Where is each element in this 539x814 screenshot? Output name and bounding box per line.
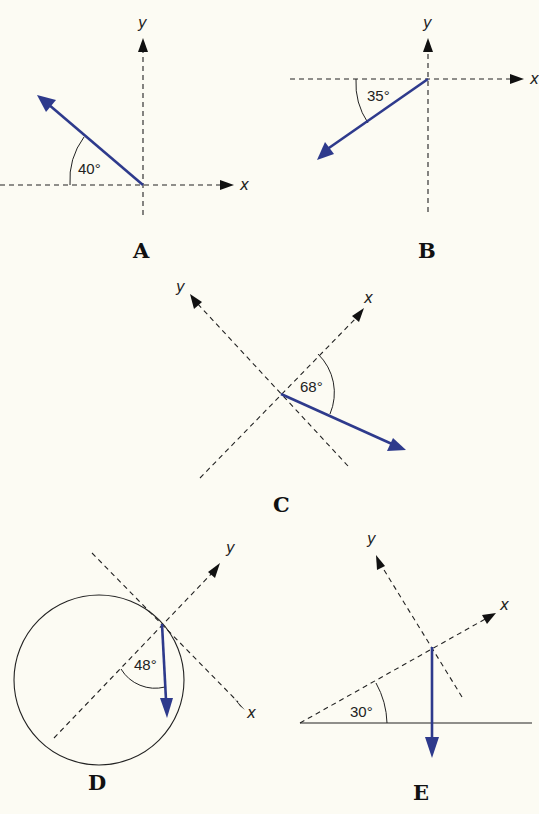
y-axis [196, 302, 348, 466]
panel-label: E [413, 780, 429, 805]
y-axis-label: y [225, 539, 236, 557]
angle-label: 30° [350, 703, 373, 720]
y-axis-arrowhead-icon [138, 38, 148, 52]
panel-e: x y 30° E [300, 530, 532, 805]
panel-label: B [418, 238, 436, 263]
y-axis-label: y [175, 278, 186, 296]
angle-label: 68° [300, 378, 323, 395]
panel-label: D [88, 770, 106, 795]
x-axis-label: x [239, 176, 249, 194]
angle-label: 40° [78, 160, 101, 177]
y-axis-label: y [366, 530, 377, 548]
vector-arrowhead-icon [425, 737, 439, 758]
angle-arc [376, 683, 387, 723]
panel-b: x y 35° B [290, 14, 539, 263]
x-axis-label: x [529, 70, 539, 88]
x-axis-label: x [499, 596, 509, 614]
panel-c: x y 68° C [175, 278, 406, 517]
vector-arrowhead-icon [387, 438, 406, 451]
panel-d: y x 48° D [14, 539, 256, 795]
vector-diagram: x y 40° A x y 35° B x y 68° C [0, 0, 539, 814]
y-axis [381, 565, 462, 697]
y-axis-arrowhead-icon [208, 563, 220, 578]
x-axis-arrowhead-icon [510, 74, 524, 84]
x-axis [300, 618, 487, 723]
y-axis-arrowhead-icon [376, 555, 385, 570]
angle-label: 35° [367, 87, 390, 104]
panel-label: C [273, 492, 290, 517]
vector-arrowhead-icon [160, 698, 173, 718]
x-axis-arrowhead-icon [234, 698, 245, 710]
y-axis [54, 572, 213, 738]
force-vector [162, 624, 166, 700]
x-axis-arrowhead-icon [220, 180, 234, 190]
y-axis-arrowhead-icon [423, 38, 433, 52]
y-axis-label: y [137, 14, 148, 32]
panel-a: x y 40° A [0, 14, 249, 263]
y-axis-label: y [422, 14, 433, 32]
angle-label: 48° [134, 656, 157, 673]
x-axis-label: x [246, 704, 256, 722]
force-vector [281, 394, 392, 444]
x-axis-label: x [363, 289, 373, 307]
x-axis-arrowhead-icon [482, 613, 496, 624]
panel-label: A [132, 238, 150, 263]
